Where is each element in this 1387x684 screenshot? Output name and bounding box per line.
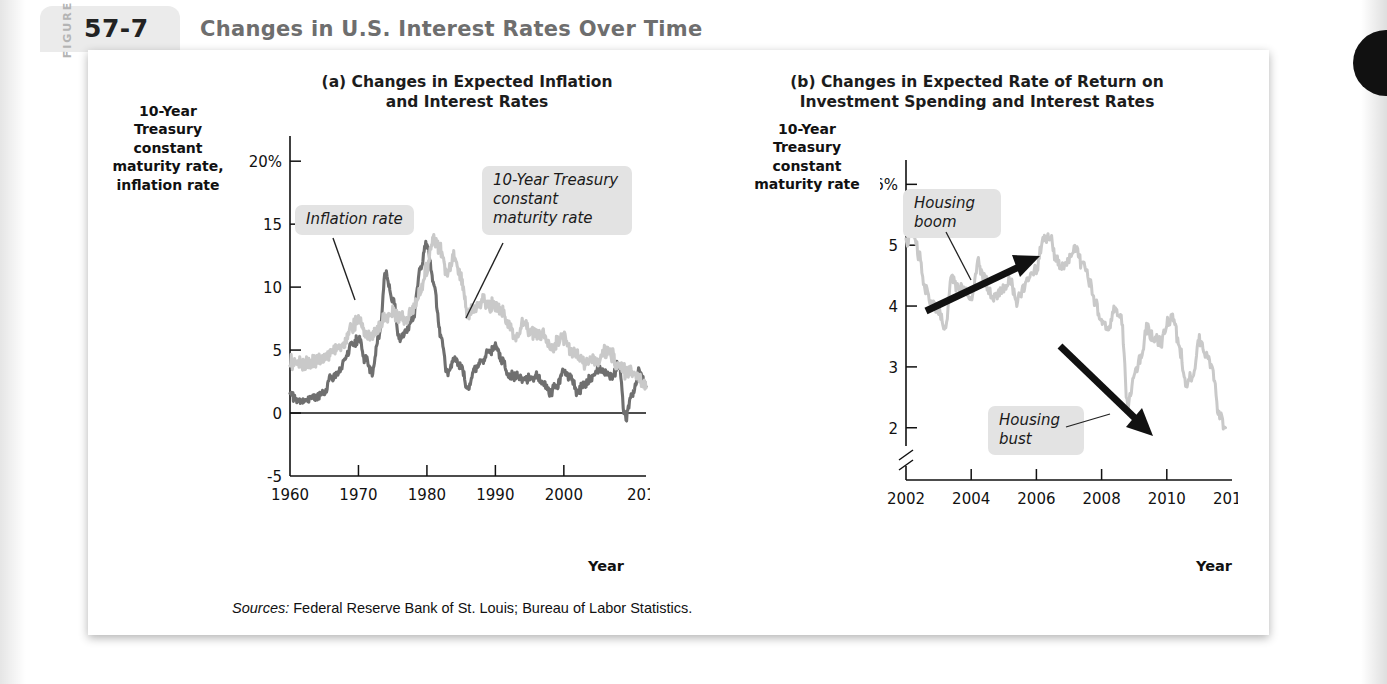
sources-note: Sources: Federal Reserve Bank of St. Lou…	[232, 600, 692, 616]
figure-word-label: FIGURE	[47, 8, 89, 50]
sources-label: Sources:	[232, 600, 289, 616]
panel-a-ytick: 20%	[249, 153, 282, 171]
panel-b-x-axis-label: Year	[1196, 558, 1232, 574]
panel-a-ytick: 15	[263, 216, 282, 234]
panel-b-ytick: 5	[888, 237, 898, 255]
callout-housing-bust: Housing bust	[988, 406, 1084, 455]
page-thumb-tab	[1353, 30, 1387, 96]
panel-a-ytick: -5	[267, 468, 282, 486]
panel-a-xtick: 1980	[408, 486, 446, 504]
figure-badge: FIGURE 57-7	[40, 6, 180, 52]
panel-b-xtick: 2002	[887, 490, 925, 508]
panel-a-ytick: 5	[272, 342, 282, 360]
panel-a-xtick: 2000	[545, 486, 583, 504]
callout-treasury-rate: 10-Year Treasury constant maturity rate	[482, 166, 632, 235]
figure-header: FIGURE 57-7 Changes in U.S. Interest Rat…	[40, 6, 703, 52]
figure-word-text: FIGURE	[62, 0, 75, 58]
panel-a-y-axis-label: 10-Year Treasury constant maturity rate,…	[108, 102, 228, 194]
panel-a-ytick: 10	[263, 279, 282, 297]
panel-b-xtick: 2010	[1148, 490, 1186, 508]
panel-a-ytick: 0	[272, 405, 282, 423]
panel-a-xtick: 1960	[271, 486, 309, 504]
panel-b-xtick: 2012	[1213, 490, 1238, 508]
figure-title: Changes in U.S. Interest Rates Over Time	[200, 17, 703, 41]
page-edge-shade-right	[1361, 0, 1387, 684]
figure-page: FIGURE 57-7 Changes in U.S. Interest Rat…	[0, 0, 1387, 684]
callout-inflation-rate: Inflation rate	[295, 205, 414, 235]
panel-b-ytick: 2	[888, 420, 898, 438]
panel-a-xtick: 2012	[627, 486, 650, 504]
callout-housing-boom: Housing boom	[903, 189, 1001, 238]
panel-b-y-axis-label: 10-Year Treasury constant maturity rate	[748, 120, 866, 194]
panel-a-x-axis-label: Year	[588, 558, 624, 574]
panel-b-series-treasury	[906, 228, 1226, 429]
figure-number: 57-7	[84, 14, 149, 43]
panel-b-xtick: 2008	[1083, 490, 1121, 508]
panel-b-ytick: 4	[888, 298, 898, 316]
panel-a-xtick: 1970	[339, 486, 377, 504]
panel-b-xtick: 2004	[952, 490, 990, 508]
panel-a-series-inflation	[290, 241, 646, 421]
panel-a-title: (a) Changes in Expected Inflation and In…	[292, 72, 642, 113]
sources-text: Federal Reserve Bank of St. Louis; Burea…	[289, 600, 692, 616]
page-edge-shade-left	[0, 0, 26, 684]
panel-b-ytick: 3	[888, 359, 898, 377]
panel-b-title: (b) Changes in Expected Rate of Return o…	[742, 72, 1212, 113]
panel-a-xtick: 1990	[476, 486, 514, 504]
panel-b-xtick: 2006	[1017, 490, 1055, 508]
panel-b-ytick: 6%	[880, 176, 898, 194]
